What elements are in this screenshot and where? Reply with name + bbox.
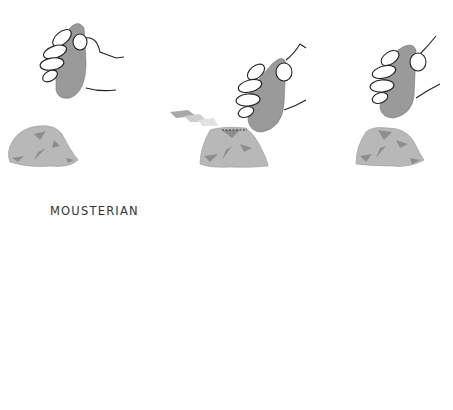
- stone-core-icon: [356, 128, 424, 167]
- stone-core-icon: [200, 127, 268, 167]
- knapping-diagram: MOUSTERIAN: [0, 0, 453, 410]
- panel-step-1: [8, 23, 124, 166]
- panel-step-2: [170, 44, 306, 167]
- section-label: MOUSTERIAN: [50, 204, 139, 218]
- stone-core-icon: [8, 126, 78, 167]
- panel-step-3: [356, 36, 440, 166]
